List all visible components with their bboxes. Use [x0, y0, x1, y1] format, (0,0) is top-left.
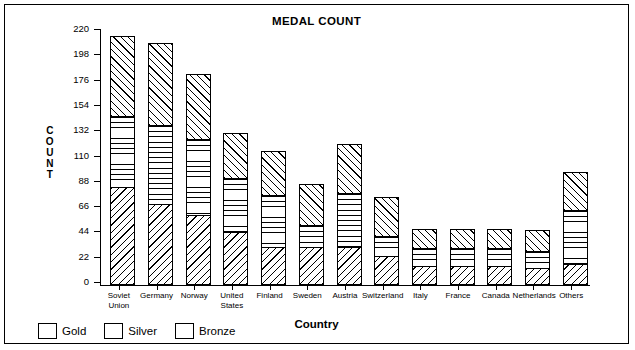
legend-item-silver[interactable]: Silver: [104, 323, 157, 339]
legend-item-gold[interactable]: Gold: [38, 323, 86, 339]
legend-label: Bronze: [199, 325, 235, 337]
bar-stack[interactable]: [563, 29, 588, 286]
bar-stack[interactable]: [223, 29, 248, 286]
y-tick-mark: [94, 29, 101, 30]
y-axis-title-letter: C: [43, 125, 57, 136]
bar-segment-bronze[interactable]: [186, 74, 211, 141]
bar-stack[interactable]: [450, 29, 475, 286]
y-tick-label: 198: [63, 49, 89, 58]
bar-segment-bronze[interactable]: [261, 151, 286, 197]
y-tick-label: 0: [63, 277, 89, 286]
bar-segment-bronze[interactable]: [110, 36, 135, 118]
bar-segment-bronze[interactable]: [412, 229, 437, 250]
bar-segment-silver[interactable]: [525, 251, 550, 269]
bar-stack[interactable]: [337, 29, 362, 286]
bar-stack[interactable]: [261, 29, 286, 286]
bar-segment-gold[interactable]: [223, 232, 248, 285]
bar-stack[interactable]: [186, 29, 211, 286]
y-axis-title: COUNT: [43, 125, 57, 180]
bar-segment-silver[interactable]: [148, 125, 173, 204]
x-tick-mark: [194, 285, 195, 290]
bronze-hatch-swatch: [175, 323, 194, 339]
y-tick-label: 22: [63, 252, 89, 261]
bar-segment-gold[interactable]: [374, 256, 399, 285]
bar-segment-gold[interactable]: [487, 266, 512, 285]
bar-segment-silver[interactable]: [261, 195, 286, 248]
bar-segment-bronze[interactable]: [525, 230, 550, 252]
y-tick-mark: [94, 257, 101, 258]
bar-stack[interactable]: [412, 29, 437, 286]
x-category-label: Netherlands: [513, 291, 555, 301]
bar-stack[interactable]: [525, 29, 550, 286]
y-tick-mark: [94, 181, 101, 182]
x-category-label: Soviet Union: [98, 291, 140, 310]
bar-segment-gold[interactable]: [412, 266, 437, 285]
bar-segment-silver[interactable]: [563, 210, 588, 265]
x-category-label: Switzerland: [362, 291, 404, 301]
chart-title: MEDAL COUNT: [5, 15, 628, 27]
y-tick-mark: [94, 130, 101, 131]
y-tick-mark: [94, 231, 101, 232]
silver-hatch-swatch: [104, 323, 123, 339]
bar-segment-gold[interactable]: [110, 187, 135, 285]
x-tick-mark: [533, 285, 534, 290]
bar-stack[interactable]: [299, 29, 324, 286]
bar-segment-gold[interactable]: [261, 247, 286, 285]
bar-stack[interactable]: [374, 29, 399, 286]
bar-stack[interactable]: [110, 29, 135, 286]
x-tick-mark: [420, 285, 421, 290]
y-tick-label: 88: [63, 176, 89, 185]
y-axis-title-letter: O: [43, 136, 57, 147]
bar-stack[interactable]: [148, 29, 173, 286]
bar-segment-bronze[interactable]: [450, 229, 475, 250]
bar-segment-gold[interactable]: [148, 204, 173, 286]
bar-segment-bronze[interactable]: [148, 43, 173, 127]
bar-segment-bronze[interactable]: [563, 172, 588, 211]
y-tick-label: 132: [63, 125, 89, 134]
y-axis-tick-labels: 022446688110132154176198220: [59, 29, 89, 286]
bar-segment-silver[interactable]: [186, 139, 211, 216]
bar-segment-silver[interactable]: [299, 225, 324, 248]
bar-segment-silver[interactable]: [374, 236, 399, 258]
bar-segment-silver[interactable]: [487, 248, 512, 266]
chart-legend: GoldSilverBronze: [38, 321, 248, 341]
bar-segment-silver[interactable]: [450, 248, 475, 266]
bar-segment-bronze[interactable]: [223, 133, 248, 179]
bar-segment-gold[interactable]: [450, 266, 475, 285]
bar-segment-silver[interactable]: [337, 193, 362, 248]
x-tick-mark: [119, 285, 120, 290]
bar-segment-bronze[interactable]: [487, 229, 512, 250]
bar-segment-gold[interactable]: [337, 247, 362, 285]
y-axis-line: [100, 29, 101, 286]
bar-segment-silver[interactable]: [110, 116, 135, 188]
bar-segment-bronze[interactable]: [374, 197, 399, 237]
legend-label: Gold: [62, 325, 86, 337]
x-category-label: Austria: [324, 291, 366, 301]
x-category-label: Others: [550, 291, 592, 301]
bar-stack[interactable]: [487, 29, 512, 286]
plot-area: [100, 29, 590, 286]
bar-segment-bronze[interactable]: [337, 144, 362, 194]
bar-segment-gold[interactable]: [525, 268, 550, 285]
legend-label: Silver: [128, 325, 157, 337]
x-tick-mark: [157, 285, 158, 290]
x-tick-mark: [345, 285, 346, 290]
legend-item-bronze[interactable]: Bronze: [175, 323, 235, 339]
bar-segment-gold[interactable]: [563, 264, 588, 285]
y-tick-label: 154: [63, 100, 89, 109]
bar-segment-gold[interactable]: [186, 215, 211, 285]
x-tick-mark: [571, 285, 572, 290]
chart-frame: MEDAL COUNT COUNT 0224466881101321541761…: [4, 4, 629, 344]
y-tick-mark: [94, 282, 101, 283]
y-axis-title-letter: T: [43, 169, 57, 180]
y-tick-mark: [94, 105, 101, 106]
bar-segment-gold[interactable]: [299, 247, 324, 285]
x-category-label: Sweden: [286, 291, 328, 301]
y-tick-mark: [94, 80, 101, 81]
bar-segment-silver[interactable]: [412, 248, 437, 266]
x-category-label: France: [437, 291, 479, 301]
bar-segment-bronze[interactable]: [299, 184, 324, 226]
x-category-label: Norway: [173, 291, 215, 301]
bar-segment-silver[interactable]: [223, 178, 248, 233]
y-tick-label: 110: [63, 151, 89, 160]
